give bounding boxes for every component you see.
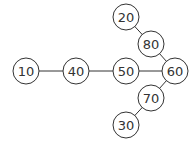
node-label: 50	[118, 64, 135, 79]
node-30: 30	[113, 112, 139, 138]
graph-diagram: 10 40 50 60 80 20 70 30	[0, 0, 192, 142]
node-60: 60	[162, 58, 188, 84]
node-70: 70	[138, 85, 164, 111]
node-80: 80	[138, 31, 164, 57]
node-50: 50	[113, 58, 139, 84]
node-label: 20	[118, 10, 135, 25]
node-10: 10	[13, 58, 39, 84]
node-label: 70	[143, 91, 160, 106]
node-20: 20	[113, 4, 139, 30]
node-label: 80	[143, 37, 160, 52]
node-40: 40	[63, 58, 89, 84]
node-label: 60	[167, 64, 184, 79]
node-label: 40	[68, 64, 85, 79]
node-label: 30	[118, 118, 135, 133]
node-label: 10	[18, 64, 35, 79]
